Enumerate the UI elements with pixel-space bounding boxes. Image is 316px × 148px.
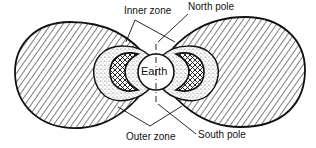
earth-label: Earth bbox=[141, 66, 167, 77]
outer-zone-leader-left bbox=[118, 107, 150, 126]
radiation-belt-diagram: Inner zone North pole Earth Outer zone S… bbox=[0, 0, 316, 148]
north-pole-label: North pole bbox=[188, 2, 234, 12]
south-pole-label: South pole bbox=[198, 130, 246, 140]
inner-zone-leader-left bbox=[126, 20, 135, 42]
inner-zone-label: Inner zone bbox=[124, 6, 171, 16]
outer-zone-leader-right bbox=[150, 106, 182, 126]
inner-zone-leader-right bbox=[135, 20, 175, 42]
outer-zone-label: Outer zone bbox=[126, 132, 175, 142]
